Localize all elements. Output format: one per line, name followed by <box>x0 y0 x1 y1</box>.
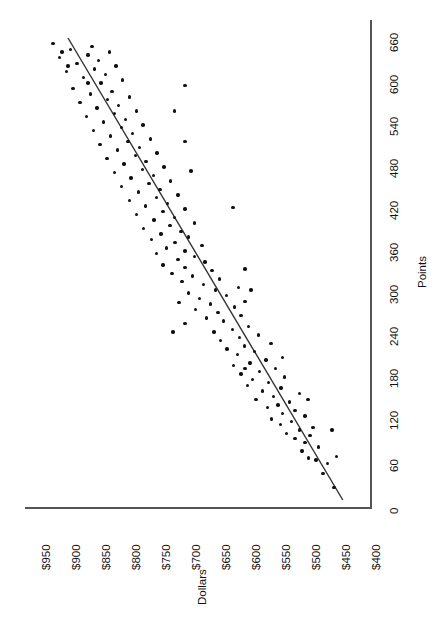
scatter-point <box>97 59 100 62</box>
scatter-point <box>279 386 282 389</box>
scatter-point <box>108 50 111 53</box>
scatter-point <box>86 53 89 56</box>
scatter-point <box>314 458 317 461</box>
dollars-tick-label: $750 <box>161 544 173 570</box>
points-tick-label: 660 <box>389 33 401 52</box>
scatter-point <box>144 204 147 207</box>
scatter-point <box>249 288 252 291</box>
scatter-point <box>183 207 186 210</box>
scatter-point <box>66 64 69 67</box>
scatter-point <box>274 367 277 370</box>
scatter-point <box>128 199 131 202</box>
scatter-point <box>189 169 192 172</box>
scatter-point <box>202 283 205 286</box>
scatter-point <box>187 291 190 294</box>
scatter-point <box>306 398 309 401</box>
scatter-point <box>152 218 155 221</box>
scatter-point <box>187 235 190 238</box>
scatter-point <box>321 472 324 475</box>
scatter-point <box>303 441 306 444</box>
scatter-point <box>173 241 176 244</box>
scatter-point <box>120 185 123 188</box>
scatter-point <box>231 328 234 331</box>
scatter-point <box>246 384 249 387</box>
scatter-point <box>243 300 246 303</box>
scatter-point <box>281 356 284 359</box>
dollars-axis-title: Dollars <box>197 569 209 605</box>
scatter-point <box>236 353 239 356</box>
scatter-point <box>183 266 186 269</box>
scatter-point <box>279 423 282 426</box>
scatter-point <box>168 224 171 227</box>
scatter-point <box>120 126 123 129</box>
scatter-point <box>303 414 306 417</box>
scatter-point <box>300 449 303 452</box>
scatter-point <box>311 426 314 429</box>
points-tick-label: 0 <box>389 508 401 514</box>
scatter-point <box>193 255 196 258</box>
dollars-tick-label: $850 <box>101 544 113 570</box>
scatter-point <box>69 48 72 51</box>
scatter-point <box>212 330 215 333</box>
scatter-point <box>307 456 310 459</box>
scatter-point <box>253 350 256 353</box>
scatter-point <box>239 314 242 317</box>
scatter-point <box>254 398 257 401</box>
scatter-point <box>113 171 116 174</box>
scatter-point <box>117 104 120 107</box>
scatter-point <box>75 62 78 65</box>
scatter-point <box>176 193 179 196</box>
trend-line <box>0 0 445 636</box>
scatter-point <box>90 45 93 48</box>
dollars-axis-line <box>25 507 372 509</box>
dollars-tick-label: $650 <box>221 544 233 570</box>
scatter-point <box>161 263 164 266</box>
scatter-point <box>209 302 212 305</box>
scatter-point <box>276 403 279 406</box>
plot-area <box>0 0 445 636</box>
scatter-point <box>121 78 124 81</box>
scatter-point <box>124 118 127 121</box>
scatter-point <box>332 486 335 489</box>
scatter-point <box>134 154 137 157</box>
scatter-point <box>173 109 176 112</box>
scatter-point <box>222 319 225 322</box>
scatter-point <box>171 330 174 333</box>
scatter-point <box>183 84 186 87</box>
scatter-point <box>152 174 155 177</box>
dollars-tick-label: $700 <box>191 544 203 570</box>
scatter-point <box>270 417 273 420</box>
points-axis-title: Points <box>417 256 429 288</box>
scatter-point <box>210 269 213 272</box>
scatter-point <box>86 81 89 84</box>
scatter-point <box>65 70 68 73</box>
scatter-point <box>243 367 246 370</box>
scatter-point <box>251 378 254 381</box>
scatter-point <box>155 151 158 154</box>
scatter-point <box>129 176 132 179</box>
scatter-point <box>335 455 338 458</box>
scatter-point <box>180 280 183 283</box>
points-tick-label: 360 <box>389 243 401 262</box>
scatter-point <box>177 301 180 304</box>
scatter-point <box>162 165 165 168</box>
scatter-point <box>102 120 105 123</box>
scatter-point <box>166 202 169 205</box>
scatter-point <box>135 213 138 216</box>
points-tick-label: 300 <box>389 285 401 304</box>
scatter-point <box>104 73 107 76</box>
dollars-tick-label: $500 <box>311 544 323 570</box>
scatter-point <box>283 375 286 378</box>
scatter-point <box>126 140 129 143</box>
scatter-point <box>58 56 61 59</box>
scatter-point <box>193 221 196 224</box>
points-tick-label: 540 <box>389 117 401 136</box>
scatter-point <box>219 339 222 342</box>
scatter-point <box>264 358 267 361</box>
scatter-point <box>105 157 108 160</box>
scatter-point <box>285 432 288 435</box>
scatter-point <box>141 168 144 171</box>
scatter-point <box>239 372 242 375</box>
scatter-point <box>243 344 246 347</box>
scatter-point <box>155 196 158 199</box>
